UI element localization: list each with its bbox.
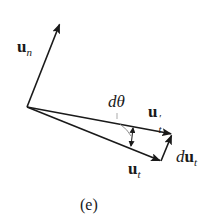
vector-dut <box>161 136 172 162</box>
vector-diagram <box>0 0 218 222</box>
label-ut-prime: u′t <box>148 103 163 120</box>
figure-caption: (e) <box>80 197 98 213</box>
label-dut-sub: t <box>194 156 197 168</box>
vector-un <box>27 25 60 108</box>
label-ut-sub: t <box>137 168 140 180</box>
label-un-sub: n <box>26 46 32 58</box>
label-ut: ut <box>128 160 141 177</box>
angle-arrow <box>131 137 132 146</box>
label-dut-prefix: d <box>176 147 185 166</box>
label-dtheta: dθ <box>108 93 125 110</box>
label-dut: dut <box>176 148 197 165</box>
label-dut-base: u <box>185 147 194 166</box>
label-ut-prime-sub: t <box>158 124 161 135</box>
angle-arrow <box>132 128 133 137</box>
label-un: un <box>17 38 32 55</box>
vector-ut <box>27 107 160 161</box>
label-ut-prime-base: u <box>148 102 157 121</box>
